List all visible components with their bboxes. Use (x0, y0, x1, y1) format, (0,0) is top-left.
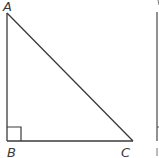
side-ac-hypotenuse (7, 13, 133, 141)
vertex-label-c: C (121, 145, 131, 158)
adjacent-figure-top-mark (158, 0, 159, 5)
triangle-diagram: A B C (0, 0, 159, 158)
right-angle-marker (7, 127, 21, 141)
vertex-label-b: B (7, 145, 16, 158)
vertex-label-a: A (2, 0, 12, 14)
